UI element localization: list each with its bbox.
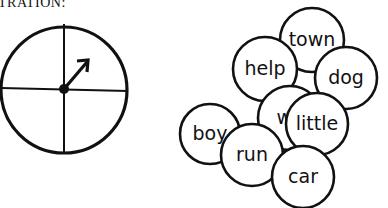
- word-label: little: [296, 112, 338, 134]
- word-circles: towndoghelpwalittleboyruncar: [180, 8, 377, 208]
- spinner-hub: [59, 84, 69, 94]
- word-circle-car: car: [272, 146, 334, 208]
- word-label: dog: [328, 66, 364, 88]
- word-label: car: [288, 165, 318, 187]
- spinner: [1, 24, 128, 154]
- word-label: town: [289, 28, 336, 50]
- illustration-canvas: towndoghelpwalittleboyruncar: [0, 0, 388, 208]
- spinner-arrow: [64, 62, 87, 89]
- word-label: help: [244, 57, 285, 79]
- word-label: run: [236, 143, 268, 165]
- word-label: boy: [193, 122, 228, 144]
